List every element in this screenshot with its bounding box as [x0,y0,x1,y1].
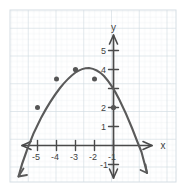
y-tick-label: 1 [101,122,106,132]
y-axis-label: y [111,22,116,33]
x-axis-label: x [161,140,166,151]
x-tick-label: -4 [51,152,59,162]
x-tick-label: -3 [70,152,78,162]
x-tick-label: -5 [32,152,40,162]
y-tick-label: -1 [100,160,108,170]
data-point [111,105,116,110]
data-point [35,105,40,110]
x-tick-label: -1 [108,152,116,162]
y-tick-label: 5 [101,46,106,56]
data-point [54,77,59,82]
coordinate-plane-svg: -5 -4 -3 -2 -1 5 4 2 1 -1 y x [0,0,186,192]
data-point [92,77,97,82]
y-tick-label: 4 [101,65,106,75]
graph-figure: -5 -4 -3 -2 -1 5 4 2 1 -1 y x [0,0,186,192]
data-point [73,67,78,72]
y-tick-label: 2 [101,103,106,113]
x-tick-label: -2 [89,152,97,162]
